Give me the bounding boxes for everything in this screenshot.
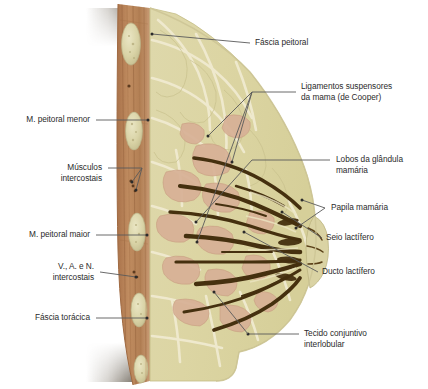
label-ducto-lactifero: Ducto lactífero: [322, 266, 375, 277]
label-ligamentos-cooper: Ligamentos suspensores da mama (de Coope…: [301, 81, 392, 102]
label-musculos-intercostais: Músculos intercostais: [12, 162, 102, 183]
label-seio-lactifero: Seio lactífero: [326, 232, 374, 243]
label-m-peitoral-maior: M. peitoral maior: [2, 229, 90, 240]
label-fascia-toracica: Fáscia torácica: [4, 312, 90, 323]
label-papila-mamaria: Papila mamária: [331, 202, 388, 213]
label-m-peitoral-menor: M. peitoral menor: [4, 114, 90, 125]
label-tecido-conjuntivo: Tecido conjuntivo interlobular: [304, 328, 367, 349]
label-van-intercostais: V., A. e N. intercostais: [12, 261, 94, 282]
label-lobos-glandula: Lobos da glândula mamária: [336, 154, 403, 175]
label-fascia-peitoral: Fáscia peitoral: [255, 37, 308, 48]
